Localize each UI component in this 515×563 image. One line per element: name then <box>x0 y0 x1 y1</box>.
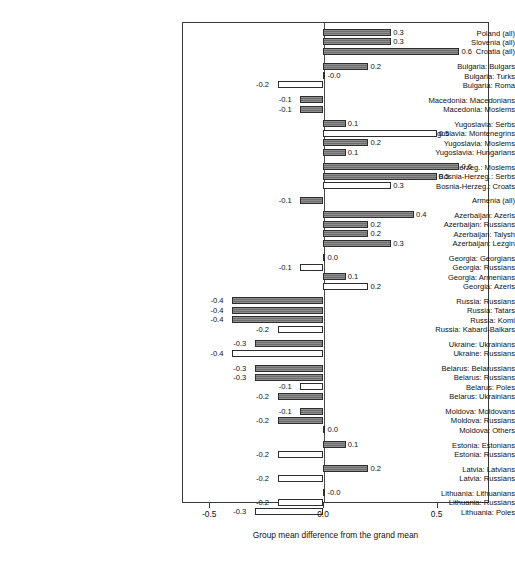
bar <box>323 489 326 496</box>
bar-value-label: -0.2 <box>256 473 269 484</box>
bar <box>300 264 323 271</box>
bar-value-label: -0.3 <box>233 506 246 517</box>
bar-row: Macedonia: Moslems-0.1 <box>0 104 515 115</box>
bar <box>323 173 437 180</box>
bar <box>278 499 323 506</box>
bar-row: Croatia (all)0.6 <box>0 46 515 57</box>
bar <box>232 297 323 304</box>
bar-row: Georgia: Azeris0.2 <box>0 281 515 292</box>
bar-plot-area: -0.2 <box>182 391 489 402</box>
bar-plot-area: -0.1 <box>182 104 489 115</box>
bar-plot-area: -0.2 <box>182 473 489 484</box>
bar-plot-area: -0.2 <box>182 449 489 460</box>
bar <box>300 408 323 415</box>
bar-plot-area: 0.6 <box>182 46 489 57</box>
bar <box>323 221 368 228</box>
bar-row: Estonia: Russians-0.2 <box>0 449 515 460</box>
x-axis-tick <box>323 503 324 508</box>
bar <box>232 316 323 323</box>
bar-value-label: 0.0 <box>327 424 338 435</box>
bar-row: Moldova: Others0.0 <box>0 425 515 436</box>
bar-row: Bulgaria: Roma-0.2 <box>0 80 515 91</box>
bar <box>323 48 459 55</box>
bar <box>323 441 346 448</box>
bar <box>323 120 346 127</box>
bar-value-label: -0.2 <box>256 79 269 90</box>
bar <box>323 130 437 137</box>
bar-value-label: 0.1 <box>348 147 359 158</box>
bar-value-label: 0.3 <box>393 180 404 191</box>
bar <box>323 230 368 237</box>
bar <box>278 81 323 88</box>
bar <box>323 465 368 472</box>
bar <box>255 374 323 381</box>
chart-figure: Poland (all)0.3Slovenia (all)0.3Croatia … <box>0 0 515 563</box>
bar <box>323 426 326 433</box>
bar-row: Azerbaijan: Lezgin0.3 <box>0 238 515 249</box>
x-axis-tick-label: 0.0 <box>301 509 345 520</box>
bar-plot-area: -0.4 <box>182 348 489 359</box>
bar <box>323 149 346 156</box>
bar <box>255 340 323 347</box>
bar-plot-area: -0.2 <box>182 80 489 91</box>
bar <box>323 72 326 79</box>
bar <box>323 38 391 45</box>
bar-value-label: -0.2 <box>256 324 269 335</box>
bar <box>323 211 414 218</box>
x-axis-tick <box>209 503 210 508</box>
bar <box>278 326 323 333</box>
bar-value-label: -0.1 <box>279 104 292 115</box>
bar-value-label: -0.2 <box>256 449 269 460</box>
bar <box>300 197 323 204</box>
bar <box>232 350 323 357</box>
bar <box>323 240 391 247</box>
bar <box>323 163 459 170</box>
bar-row: Belarus: Ukrainians-0.2 <box>0 391 515 402</box>
bar <box>323 139 368 146</box>
bar <box>300 96 323 103</box>
x-axis-tick-label: 0.5 <box>415 509 459 520</box>
bar-value-label: -0.1 <box>279 195 292 206</box>
bar <box>300 106 323 113</box>
bar <box>278 451 323 458</box>
bar-row: Ukraine: Russians-0.4 <box>0 348 515 359</box>
bar <box>323 63 368 70</box>
bar-plot-area: 0.0 <box>182 425 489 436</box>
bar-row: Armenia (all)-0.1 <box>0 195 515 206</box>
bar-row: Yugoslavia: Hungarians0.1 <box>0 147 515 158</box>
bar-plot-area: 0.1 <box>182 147 489 158</box>
bar <box>323 273 346 280</box>
bar <box>323 283 368 290</box>
bar-row: Latvia: Russians-0.2 <box>0 473 515 484</box>
bar <box>323 182 391 189</box>
bar-plot-area: -0.2 <box>182 324 489 335</box>
bar-value-label: 0.3 <box>393 238 404 249</box>
bar-plot-area: 0.3 <box>182 238 489 249</box>
bar-plot-area: 0.3 <box>182 181 489 192</box>
bar <box>278 417 323 424</box>
bar-value-label: 0.2 <box>370 281 381 292</box>
bar-plot-area: -0.1 <box>182 195 489 206</box>
bar-value-label: -0.4 <box>210 348 223 359</box>
bar <box>323 254 326 261</box>
bar <box>323 29 391 36</box>
x-axis-tick <box>437 503 438 508</box>
x-axis-tick-label: -0.5 <box>187 509 231 520</box>
bar-value-label: -0.2 <box>256 391 269 402</box>
bar-row: Bosnia-Herzeg.: Croats0.3 <box>0 181 515 192</box>
bar <box>278 393 323 400</box>
bar-plot-area: 0.2 <box>182 281 489 292</box>
bar-row: Russia: Kabard-Balkars-0.2 <box>0 324 515 335</box>
bar <box>300 383 323 390</box>
x-axis-label: Group mean difference from the grand mea… <box>182 530 489 540</box>
bar <box>232 307 323 314</box>
bar <box>255 365 323 372</box>
bar-value-label: 0.6 <box>461 46 472 57</box>
bar <box>278 475 323 482</box>
